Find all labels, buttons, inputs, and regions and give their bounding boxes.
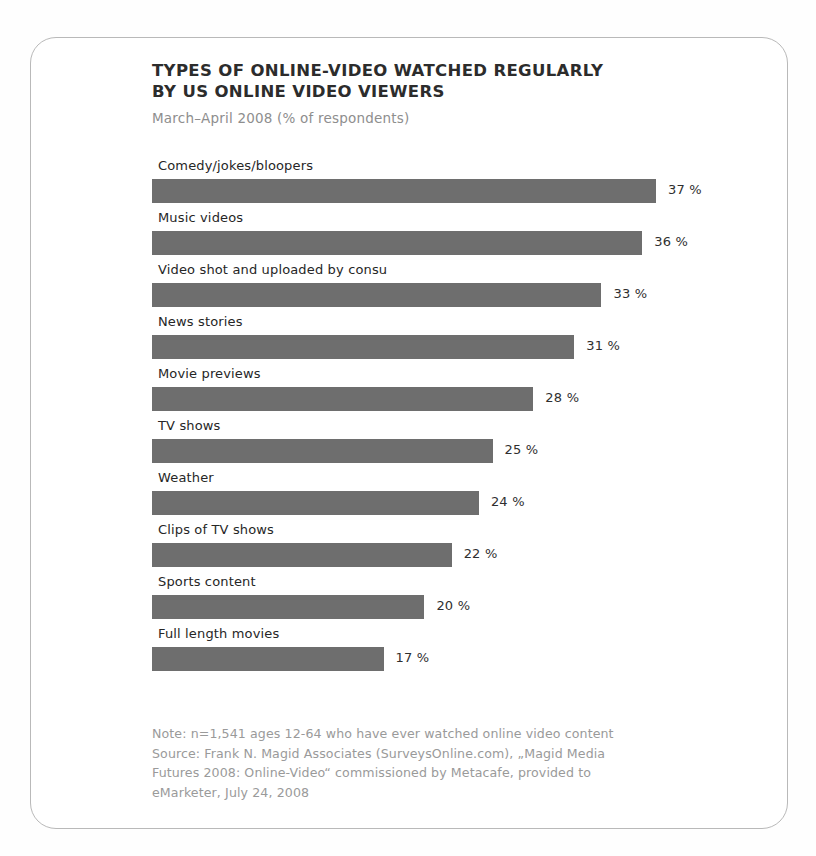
bar-row: Weather24 % — [152, 470, 752, 522]
chart-subtitle: March–April 2008 (% of respondents) — [152, 109, 712, 127]
chart-header: TYPES OF ONLINE-VIDEO WATCHED REGULARLY … — [152, 60, 712, 127]
bar-category-label: Comedy/jokes/bloopers — [158, 158, 313, 174]
bar-track: 33 % — [152, 283, 752, 307]
bar-fill — [152, 439, 493, 463]
bar-value-label: 22 % — [464, 546, 498, 561]
bar-fill — [152, 283, 601, 307]
bar-track: 22 % — [152, 543, 752, 567]
bar-value-label: 24 % — [491, 494, 525, 509]
bar-fill — [152, 647, 384, 671]
bar-row: Comedy/jokes/bloopers37 % — [152, 158, 752, 210]
bar-category-label: Music videos — [158, 210, 243, 226]
bar-category-label: Full length movies — [158, 626, 279, 642]
bar-row: Sports content20 % — [152, 574, 752, 626]
footnote-source-line-3: eMarketer, July 24, 2008 — [152, 783, 712, 803]
bar-row: Music videos36 % — [152, 210, 752, 262]
bar-track: 24 % — [152, 491, 752, 515]
bar-category-label: Video shot and uploaded by consu — [158, 262, 387, 278]
bar-fill — [152, 179, 656, 203]
bar-track: 31 % — [152, 335, 752, 359]
bar-fill — [152, 543, 452, 567]
bar-value-label: 36 % — [654, 234, 688, 249]
bar-row: Full length movies17 % — [152, 626, 752, 678]
footnote-source-line-1: Source: Frank N. Magid Associates (Surve… — [152, 744, 712, 764]
bar-track: 17 % — [152, 647, 752, 671]
bar-value-label: 28 % — [545, 390, 579, 405]
bar-track: 28 % — [152, 387, 752, 411]
bar-fill — [152, 231, 642, 255]
bar-fill — [152, 491, 479, 515]
bar-chart-plot: Comedy/jokes/bloopers37 %Music videos36 … — [152, 158, 752, 678]
footnote-source-line-2: Futures 2008: Online-Video“ commissioned… — [152, 763, 712, 783]
bar-track: 36 % — [152, 231, 752, 255]
bar-row: Movie previews28 % — [152, 366, 752, 418]
bar-category-label: Movie previews — [158, 366, 261, 382]
bar-row: Clips of TV shows22 % — [152, 522, 752, 574]
bar-category-label: TV shows — [158, 418, 221, 434]
footnote-note-line: Note: n=1,541 ages 12-64 who have ever w… — [152, 724, 712, 744]
bar-category-label: Clips of TV shows — [158, 522, 274, 538]
bar-track: 25 % — [152, 439, 752, 463]
bar-track: 20 % — [152, 595, 752, 619]
chart-title-line-2: BY US ONLINE VIDEO VIEWERS — [152, 81, 712, 102]
bar-fill — [152, 595, 424, 619]
chart-footnote: Note: n=1,541 ages 12-64 who have ever w… — [152, 724, 712, 802]
bar-value-label: 31 % — [586, 338, 620, 353]
bar-value-label: 17 % — [396, 650, 430, 665]
bar-row: TV shows25 % — [152, 418, 752, 470]
bar-value-label: 20 % — [436, 598, 470, 613]
bar-value-label: 37 % — [668, 182, 702, 197]
bar-track: 37 % — [152, 179, 752, 203]
bar-fill — [152, 387, 533, 411]
chart-page: TYPES OF ONLINE-VIDEO WATCHED REGULARLY … — [0, 0, 816, 856]
bar-fill — [152, 335, 574, 359]
chart-title-line-1: TYPES OF ONLINE-VIDEO WATCHED REGULARLY — [152, 60, 712, 81]
bar-category-label: Weather — [158, 470, 214, 486]
bar-value-label: 33 % — [613, 286, 647, 301]
bar-category-label: Sports content — [158, 574, 256, 590]
bar-row: News stories31 % — [152, 314, 752, 366]
bar-value-label: 25 % — [505, 442, 539, 457]
bar-row: Video shot and uploaded by consu33 % — [152, 262, 752, 314]
bar-category-label: News stories — [158, 314, 243, 330]
